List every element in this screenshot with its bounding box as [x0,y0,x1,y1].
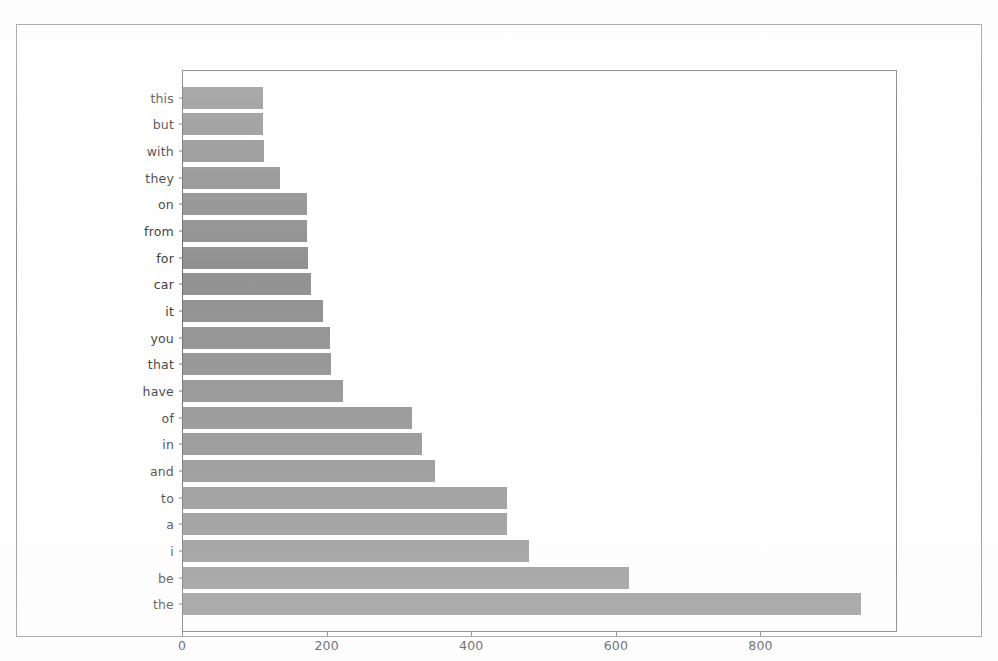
bar-row: but [183,113,263,135]
y-tick-mark [179,337,183,338]
bar-row: from [183,220,307,242]
y-tick-label: from [144,224,174,239]
y-tick-mark [179,604,183,605]
bar [183,460,435,482]
x-tick-label: 600 [604,638,628,653]
bar [183,540,529,562]
y-tick-mark [179,524,183,525]
y-tick-label: be [158,570,174,585]
y-tick-mark [179,551,183,552]
bar [183,380,343,402]
bar-row: on [183,193,307,215]
bar-row: and [183,460,435,482]
bar-row: in [183,433,422,455]
y-tick-mark [179,311,183,312]
y-tick-mark [179,364,183,365]
bar [183,407,412,429]
y-tick-label: and [150,464,174,479]
y-tick-mark [179,577,183,578]
bar [183,513,507,535]
y-tick-mark [179,97,183,98]
bar-row: you [183,327,330,349]
y-tick-label: i [170,544,174,559]
bar-row: they [183,167,280,189]
bar [183,353,331,375]
y-tick-label: with [147,144,174,159]
x-tick-mark [471,632,472,636]
bar-row: car [183,273,311,295]
y-tick-mark [179,151,183,152]
y-tick-label: you [150,330,174,345]
x-tick-label: 0 [178,638,186,653]
x-tick-mark [327,632,328,636]
bar-row: a [183,513,507,535]
bar [183,113,263,135]
y-tick-label: the [153,597,174,612]
y-tick-label: but [153,117,174,132]
y-tick-mark [179,257,183,258]
bar [183,567,629,589]
y-tick-label: they [145,170,174,185]
bar-row: to [183,487,507,509]
y-tick-label: that [148,357,174,372]
bar [183,327,330,349]
x-tick-label: 200 [314,638,338,653]
y-tick-label: a [166,517,174,532]
bar [183,433,422,455]
bar-row: with [183,140,264,162]
y-tick-label: for [156,250,174,265]
plot-frame: thisbutwiththeyonfromforcarityouthathave… [182,70,897,632]
x-tick-mark [182,632,183,636]
bar-row: i [183,540,529,562]
bar [183,487,507,509]
bar [183,220,307,242]
plot-area: thisbutwiththeyonfromforcarityouthathave… [183,71,896,631]
y-tick-mark [179,284,183,285]
x-axis: 0200400600800 [182,632,897,661]
bar [183,87,263,109]
x-tick-label: 800 [748,638,772,653]
bar-row: it [183,300,323,322]
bar-row: this [183,87,263,109]
y-tick-label: have [143,384,174,399]
y-tick-label: this [150,90,174,105]
y-tick-label: in [162,437,174,452]
bar [183,193,307,215]
bar-row: be [183,567,629,589]
y-tick-label: it [165,304,174,319]
y-tick-mark [179,204,183,205]
y-tick-label: car [154,277,174,292]
bar [183,247,308,269]
y-tick-mark [179,124,183,125]
y-tick-mark [179,497,183,498]
y-tick-mark [179,231,183,232]
y-tick-label: of [162,410,174,425]
x-tick-label: 400 [459,638,483,653]
y-tick-mark [179,471,183,472]
bar-row: for [183,247,308,269]
y-tick-mark [179,417,183,418]
x-tick-mark [616,632,617,636]
scanned-page-border: thisbutwiththeyonfromforcarityouthathave… [16,24,982,637]
y-tick-mark [179,444,183,445]
bar [183,300,323,322]
bar [183,273,311,295]
bar-row: the [183,593,861,615]
bar [183,593,861,615]
bar-row: that [183,353,331,375]
bar-row: have [183,380,343,402]
bar [183,167,280,189]
y-tick-label: on [158,197,174,212]
y-tick-label: to [161,490,174,505]
y-tick-mark [179,391,183,392]
y-tick-mark [179,177,183,178]
x-tick-mark [760,632,761,636]
bar [183,140,264,162]
bar-row: of [183,407,412,429]
